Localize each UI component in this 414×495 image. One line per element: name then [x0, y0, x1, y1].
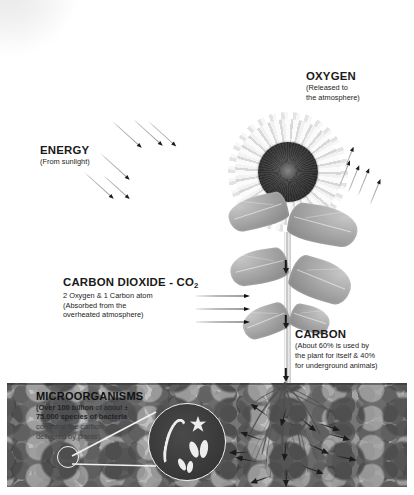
- bacteria-rod-icon: [186, 461, 194, 474]
- leaf: [286, 252, 357, 308]
- bacteria-rod-icon: [199, 440, 209, 459]
- label-micro-line-4: delivered by plants): [36, 432, 143, 442]
- label-oxygen-line-2: the atmosphere): [306, 93, 360, 103]
- diagram-canvas: OXYGEN (Released to the atmosphere) ENER…: [0, 0, 414, 495]
- label-energy-heading: ENERGY: [40, 144, 90, 157]
- energy-arrow: [84, 172, 115, 200]
- label-oxygen-heading: OXYGEN: [306, 70, 360, 83]
- leaf: [228, 246, 290, 288]
- label-co2-line-1: 2 Oxygen & 1 Carbon atom: [63, 291, 198, 301]
- leaf: [285, 201, 360, 249]
- flower-disc-core: [280, 163, 296, 179]
- label-carbon-line-1: (About 60% is used by: [295, 341, 378, 351]
- magnifier-source-circle: [57, 446, 79, 468]
- label-carbon-line-2: the plant for itself & 40%: [295, 351, 378, 361]
- label-microorganisms: MICROORGANISMS (Over 100 billion of abou…: [36, 390, 143, 442]
- label-carbon: CARBON (About 60% is used by the plant f…: [295, 328, 378, 371]
- label-micro-line-3: consume the carbon: [36, 422, 143, 432]
- label-micro-line-2-bold: 75.000 species of bacteria: [36, 412, 127, 421]
- magnifier-inset-icon: [148, 403, 226, 481]
- label-co2-line-3: overheated atmosphere): [63, 310, 198, 320]
- label-oxygen: OXYGEN (Released to the atmosphere): [306, 70, 360, 103]
- label-carbon-line-3: for underground animals): [295, 361, 378, 371]
- label-micro-line-1-rest: of about ±: [94, 403, 129, 412]
- label-carbon-dioxide: CARBON DIOXIDE - CO2 2 Oxygen & 1 Carbon…: [63, 276, 198, 320]
- label-energy: ENERGY (From sunlight): [40, 144, 90, 167]
- label-co2-line-2: (Absorbed from the: [63, 301, 198, 311]
- bacteria-rod-icon: [187, 440, 200, 459]
- bacteria-star-icon: [189, 416, 207, 434]
- label-micro-line-2: 75.000 species of bacteria: [36, 412, 143, 422]
- label-micro-heading: MICROORGANISMS: [36, 390, 143, 403]
- sun-glow-icon: [0, 0, 170, 140]
- label-oxygen-line-1: (Released to: [306, 83, 360, 93]
- soil-arrow: [284, 440, 286, 462]
- label-carbon-heading: CARBON: [295, 328, 378, 341]
- bacteria-worm-icon: [160, 417, 189, 470]
- label-energy-line-1: (From sunlight): [40, 157, 90, 167]
- label-micro-line-1-bold: (Over 100 billion: [36, 403, 94, 412]
- label-micro-line-1: (Over 100 billion of about ±: [36, 403, 143, 413]
- label-co2-heading-text: CARBON DIOXIDE - CO: [63, 276, 194, 288]
- label-co2-subscript: 2: [194, 281, 198, 290]
- soil-arrow: [228, 452, 248, 453]
- label-co2-heading: CARBON DIOXIDE - CO2: [63, 276, 198, 291]
